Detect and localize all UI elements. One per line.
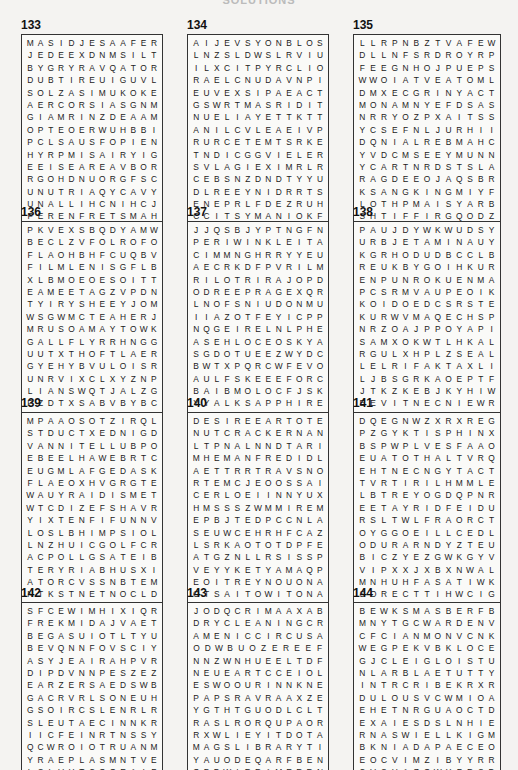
grid-letter: B — [191, 360, 201, 372]
grid-letter: M — [191, 741, 201, 753]
grid-letter: N — [263, 440, 273, 452]
grid-letter: A — [46, 111, 56, 123]
grid-letter: B — [443, 249, 454, 261]
grid-letter: O — [138, 161, 148, 173]
grid-letter: M — [411, 754, 422, 766]
grid-letter: I — [128, 427, 138, 439]
grid-letter: V — [108, 642, 118, 654]
grid-letter: P — [149, 373, 159, 385]
grid-letter: O — [66, 124, 76, 136]
grid-letter: M — [243, 99, 253, 111]
grid-letter: S — [35, 766, 45, 770]
grid-letter: G — [35, 173, 45, 185]
grid-letter: Z — [422, 754, 433, 766]
grid-letter: C — [294, 311, 304, 323]
grid-letter: A — [87, 564, 97, 576]
grid-letter: I — [35, 514, 45, 526]
grid-letter: R — [149, 348, 159, 360]
grid-letter: O — [108, 539, 118, 551]
grid-letter: T — [454, 74, 465, 86]
grid-letter: O — [263, 477, 273, 489]
grid-letter: N — [128, 336, 138, 348]
grid-letter: D — [304, 348, 314, 360]
grid-letter: E — [212, 336, 222, 348]
grid-letter: O — [422, 62, 433, 74]
grid-letter: C — [475, 87, 486, 99]
grid-letter: R — [108, 173, 118, 185]
grid-letter: N — [128, 514, 138, 526]
grid-row: EHTNECNGYTACT — [357, 465, 497, 477]
grid-letter: H — [77, 527, 87, 539]
grid-letter: P — [35, 124, 45, 136]
grid-letter: H — [454, 336, 465, 348]
grid-letter: N — [253, 186, 263, 198]
grid-letter: E — [243, 617, 253, 629]
grid-letter: O — [284, 298, 294, 310]
grid-row: ENPUNROKUENMA — [357, 274, 497, 286]
grid-letter: N — [294, 427, 304, 439]
grid-letter: S — [411, 692, 422, 704]
grid-row: KGRHODUDBCCLB — [357, 249, 497, 261]
grid-letter: A — [274, 124, 284, 136]
grid-letter: U — [486, 539, 497, 551]
grid-letter: J — [191, 224, 201, 236]
grid-letter: I — [284, 311, 294, 323]
grid-letter: L — [443, 336, 454, 348]
grid-letter: O — [97, 642, 107, 654]
grid-letter: E — [25, 161, 35, 173]
grid-letter: W — [97, 452, 107, 464]
grid-letter: A — [66, 87, 76, 99]
grid-letter: P — [475, 62, 486, 74]
grid-letter: D — [422, 298, 433, 310]
grid-letter: M — [25, 415, 35, 427]
grid-letter: F — [97, 502, 107, 514]
grid-letter: G — [191, 99, 201, 111]
grid-letter: Y — [35, 149, 45, 161]
grid-letter: N — [191, 655, 201, 667]
grid-letter: G — [443, 186, 454, 198]
grid-letter: R — [284, 49, 294, 61]
grid-letter: N — [465, 274, 476, 286]
grid-letter: I — [201, 311, 211, 323]
grid-letter: R — [284, 261, 294, 273]
grid-letter: E — [263, 124, 273, 136]
grid-letter: L — [35, 717, 45, 729]
grid-letter: S — [232, 502, 242, 514]
grid-letter: O — [304, 717, 314, 729]
grid-letter: R — [475, 452, 486, 464]
grid-letter: T — [432, 336, 443, 348]
grid-letter: S — [294, 551, 304, 563]
grid-letter: J — [368, 373, 379, 385]
grid-row: LTPNALNNDTARI — [191, 440, 325, 452]
grid-letter: I — [294, 236, 304, 248]
grid-letter: N — [87, 667, 97, 679]
grid-letter: M — [454, 149, 465, 161]
grid-letter: G — [243, 149, 253, 161]
grid-letter: C — [304, 617, 314, 629]
grid-letter: H — [253, 249, 263, 261]
grid-letter: U — [253, 704, 263, 716]
grid-letter: R — [108, 741, 118, 753]
grid-letter: S — [201, 539, 211, 551]
grid-letter: G — [201, 704, 211, 716]
grid-letter: I — [422, 477, 433, 489]
grid-letter: G — [294, 617, 304, 629]
grid-letter: M — [400, 99, 411, 111]
grid-letter: H — [77, 348, 87, 360]
grid-letter: G — [97, 465, 107, 477]
grid-letter: K — [411, 186, 422, 198]
grid-letter: S — [243, 37, 253, 49]
grid-letter: C — [138, 539, 148, 551]
grid-letter: F — [315, 655, 325, 667]
grid-letter: E — [149, 87, 159, 99]
grid-letter: B — [128, 124, 138, 136]
grid-letter: W — [379, 605, 390, 617]
grid-letter: N — [315, 766, 325, 770]
puzzle-number: 141 — [353, 396, 501, 410]
grid-letter: G — [432, 551, 443, 563]
grid-letter: R — [243, 323, 253, 335]
grid-letter: M — [454, 186, 465, 198]
grid-letter: T — [232, 99, 242, 111]
grid-letter: P — [263, 224, 273, 236]
grid-row: RSLTWLFRAORCT — [357, 514, 497, 526]
